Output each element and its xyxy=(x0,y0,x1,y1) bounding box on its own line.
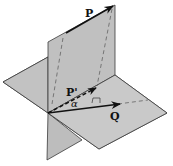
label-alpha: α xyxy=(71,98,78,109)
projection-diagram: P P' Q α xyxy=(0,0,173,166)
label-q: Q xyxy=(110,110,120,123)
label-p: P xyxy=(85,7,93,20)
horizontal-plane-left xyxy=(3,57,48,113)
